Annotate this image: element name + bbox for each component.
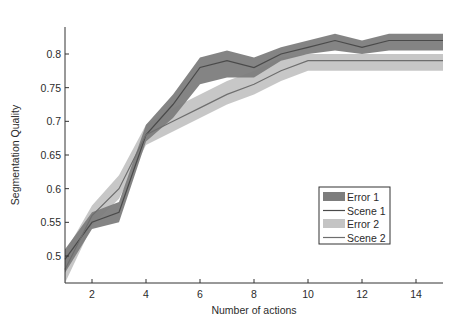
y-tick-label: 0.6 (46, 183, 61, 195)
x-axis-label: Number of actions (211, 304, 296, 316)
chart: 0.50.550.60.650.70.750.8 2468101214 Numb… (0, 0, 472, 334)
x-tick-label: 6 (197, 288, 203, 300)
y-tick-label: 0.75 (41, 82, 62, 94)
y-tick-label: 0.55 (41, 216, 62, 228)
legend-label: Error 2 (347, 218, 379, 230)
legend: Error 1Scene 1Error 2Scene 2 (319, 187, 390, 244)
y-axis-label: Segmentation Quality (9, 104, 21, 205)
error-band-2 (65, 54, 443, 283)
legend-label: Error 1 (347, 191, 379, 203)
y-tick-label: 0.5 (46, 250, 61, 262)
x-tick-label: 10 (302, 288, 314, 300)
y-tick-label: 0.7 (46, 115, 61, 127)
x-tick-label: 2 (89, 288, 95, 300)
legend-swatch-error-2 (323, 219, 345, 228)
x-tick-label: 8 (251, 288, 257, 300)
legend-label: Scene 2 (347, 232, 386, 244)
error-bands (65, 34, 443, 283)
x-tick-label: 12 (356, 288, 368, 300)
x-ticks: 2468101214 (89, 279, 422, 300)
y-tick-label: 0.65 (41, 149, 62, 161)
x-tick-label: 4 (143, 288, 149, 300)
x-tick-label: 14 (410, 288, 422, 300)
legend-swatch-error-1 (323, 192, 345, 201)
y-tick-label: 0.8 (46, 48, 61, 60)
legend-label: Scene 1 (347, 205, 386, 217)
